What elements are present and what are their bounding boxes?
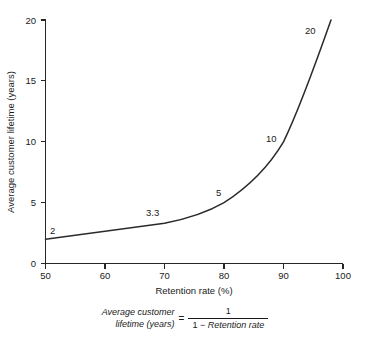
formula-left-side: Average customer lifetime (years)	[102, 307, 175, 330]
x-tick-label-80: 80	[219, 270, 230, 281]
lifetime-curve	[46, 20, 332, 239]
chart-figure: 0 5 10 15 20 50 60 70 80 90 100 2 3.3 5 …	[0, 0, 370, 347]
point-label-2: 2	[50, 225, 55, 236]
point-label-5: 5	[216, 187, 221, 198]
formula-lhs-line1: Average customer	[102, 307, 175, 319]
formula-denominator-minus: −	[200, 320, 205, 330]
x-tick-label-60: 60	[100, 270, 111, 281]
x-tick-label-90: 90	[278, 270, 289, 281]
formula-annotation: Average customer lifetime (years) = 1 1 …	[0, 306, 370, 331]
x-tick-label-70: 70	[159, 270, 170, 281]
formula-denominator-term: Retention rate	[208, 320, 265, 330]
x-tick-label-100: 100	[335, 270, 351, 281]
formula-denominator-one: 1	[192, 320, 197, 330]
y-tick-label-5: 5	[31, 197, 36, 208]
point-label-3-3: 3.3	[146, 207, 159, 218]
formula-numerator: 1	[188, 306, 268, 318]
point-label-10: 10	[266, 133, 277, 144]
retention-lifetime-line-chart: 0 5 10 15 20 50 60 70 80 90 100 2 3.3 5 …	[0, 0, 370, 347]
point-label-20: 20	[305, 25, 316, 36]
y-tick-label-10: 10	[25, 136, 36, 147]
x-axis-title: Retention rate (%)	[155, 285, 232, 296]
formula-fraction: 1 1 − Retention rate	[188, 306, 268, 331]
y-tick-label-0: 0	[31, 258, 36, 269]
formula-denominator: 1 − Retention rate	[188, 319, 268, 331]
formula-lhs-line2: lifetime (years)	[102, 319, 175, 331]
y-tick-label-20: 20	[25, 15, 36, 26]
formula-equals-sign: =	[175, 313, 189, 324]
y-tick-label-15: 15	[25, 75, 36, 86]
x-tick-label-50: 50	[40, 270, 51, 281]
y-axis-title: Average customer lifetime (years)	[5, 71, 16, 213]
